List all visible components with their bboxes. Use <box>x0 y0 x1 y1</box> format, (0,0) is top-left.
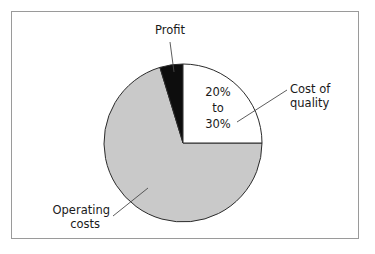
pie-chart-figure: Profit Cost of quality Operating costs 2… <box>0 0 375 254</box>
wedge-label-line1: 20% <box>205 85 231 99</box>
wedge-label-line2: to <box>212 101 224 115</box>
label-operating-costs-line2: costs <box>70 217 100 231</box>
wedge-label-line3: 30% <box>205 117 231 131</box>
label-operating-costs-line1: Operating <box>53 203 111 217</box>
pie-chart-svg: Profit Cost of quality Operating costs 2… <box>0 0 375 254</box>
label-cost-of-quality-line2: quality <box>290 96 330 110</box>
label-profit: Profit <box>155 23 185 37</box>
label-cost-of-quality-line1: Cost of <box>290 82 331 96</box>
